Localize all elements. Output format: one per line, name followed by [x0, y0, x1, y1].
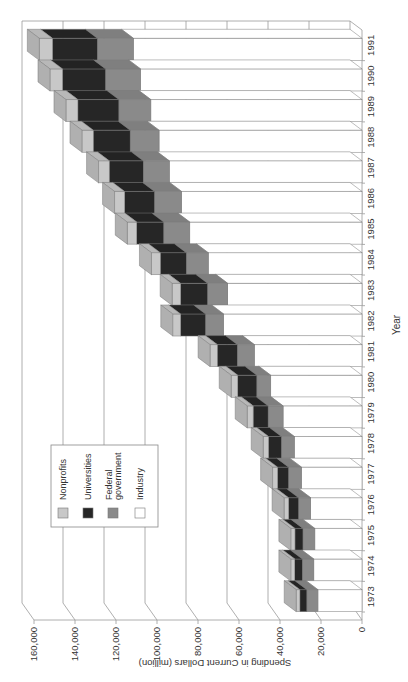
bar-segment-federal-government [208, 283, 228, 305]
bar-top-face [170, 182, 362, 191]
bar-1973 [284, 581, 362, 612]
bar-segment-federal-government [268, 406, 283, 428]
bar-segment-federal-government [164, 222, 190, 244]
bar-segment-universities [295, 528, 303, 550]
bar-top-face [121, 29, 362, 38]
bar-segment-federal-government [237, 345, 254, 367]
stacked-bar-chart: 020,00040,00060,00080,000100,000120,0001… [0, 0, 408, 682]
bar-segment-nonprofits [284, 498, 289, 520]
gridline-depth [268, 603, 280, 620]
bar-1982 [161, 305, 362, 336]
bar-segment-nonprofits [172, 283, 180, 305]
bar-segment-universities [93, 130, 130, 152]
bar-segment-federal-government [307, 590, 318, 612]
legend-swatch-universities [83, 508, 93, 518]
bar-1986 [103, 182, 362, 213]
bar-segment-universities [78, 100, 119, 122]
gridline-depth [227, 603, 239, 620]
legend-label: Universities [83, 453, 93, 500]
bar-segment-federal-government [143, 161, 169, 183]
bar-segment-universities [62, 69, 105, 91]
legend-label: Industry [135, 467, 145, 500]
bar-segment-industry [190, 222, 362, 244]
bar-1974 [279, 550, 362, 581]
bar-segment-industry [224, 314, 362, 336]
bar-1976 [272, 489, 362, 520]
bar-top-face [147, 121, 362, 130]
bar-top-face [129, 60, 362, 69]
x-tick-label: 1976 [365, 494, 376, 515]
bar-segment-federal-government [289, 467, 302, 489]
bar-segment-universities [253, 406, 268, 428]
legend-swatch-federal-government [108, 508, 118, 518]
bar-top-face [178, 213, 362, 222]
bar-segment-nonprofits [263, 436, 268, 458]
gridline-depth [186, 603, 198, 620]
x-tick-label: 1973 [365, 586, 376, 607]
bar-segment-industry [182, 191, 362, 213]
bar-segment-industry [315, 528, 362, 550]
bar-top-face [216, 274, 362, 283]
bar-segment-universities [52, 38, 97, 60]
bar-segment-nonprofits [99, 161, 110, 183]
bar-segment-federal-government [97, 38, 133, 60]
bar-segment-universities [125, 191, 155, 213]
legend-swatch-nonprofits [58, 508, 68, 518]
gridline-depth [104, 603, 116, 620]
bar-segment-federal-government [186, 253, 208, 275]
bar-1981 [198, 336, 362, 367]
x-tick-label: 1984 [365, 249, 376, 270]
bar-1988 [70, 121, 362, 152]
bar-segment-nonprofits [231, 375, 238, 397]
y-axis-tick-labels: 020,00040,00060,00080,000100,000120,0001… [28, 620, 367, 661]
bar-segment-universities [181, 283, 208, 305]
bar-segment-nonprofits [296, 590, 300, 612]
bar-segment-universities [160, 253, 186, 275]
bar-1977 [261, 458, 362, 489]
bar-segment-federal-government [106, 69, 141, 91]
bar-segment-universities [137, 222, 164, 244]
bar-segment-federal-government [257, 375, 271, 397]
bar-segment-federal-government [206, 314, 224, 336]
bar-segment-industry [294, 436, 362, 458]
bar-1990 [38, 60, 362, 91]
legend-swatch-industry [135, 508, 145, 518]
bar-top-face [212, 305, 362, 314]
bar-1991 [27, 29, 362, 60]
y-tick-label: 60,000 [233, 627, 244, 656]
bar-segment-universities [238, 375, 257, 397]
bar-segment-industry [159, 130, 362, 152]
bar-segment-federal-government [155, 191, 182, 213]
bar-segment-nonprofits [291, 528, 295, 550]
chart-canvas: 020,00040,00060,00080,000100,000120,0001… [0, 0, 408, 682]
bar-segment-nonprofits [127, 222, 136, 244]
bar-segment-nonprofits [210, 345, 217, 367]
bar-segment-industry [208, 253, 362, 275]
legend-label: government [113, 452, 123, 500]
bar-segment-industry [254, 345, 362, 367]
x-tick-label: 1978 [365, 433, 376, 454]
bar-segment-universities [300, 590, 307, 612]
y-axis-label: Spending in Current Dollars (million) [139, 658, 292, 669]
bar-segment-nonprofits [39, 38, 52, 60]
bar-segment-industry [314, 559, 362, 581]
bar-1985 [115, 213, 362, 244]
x-tick-label: 1979 [365, 402, 376, 423]
y-tick-label: 100,000 [151, 627, 162, 661]
gridline-depth [22, 603, 34, 620]
bar-segment-nonprofits [173, 314, 181, 336]
bar-segment-industry [151, 100, 362, 122]
x-tick-label: 1988 [365, 127, 376, 148]
bar-segment-universities [269, 436, 282, 458]
bar-segment-industry [283, 406, 362, 428]
bar-segment-industry [133, 38, 362, 60]
frame-corner [350, 21, 362, 30]
x-tick-label: 1991 [365, 35, 376, 56]
y-tick-label: 40,000 [274, 627, 285, 656]
y-tick-label: 140,000 [69, 627, 80, 661]
bar-segment-federal-government [119, 100, 151, 122]
bar-segment-universities [217, 345, 237, 367]
x-tick-label: 1982 [365, 310, 376, 331]
bar-segment-universities [181, 314, 206, 336]
bar-segment-federal-government [299, 498, 311, 520]
